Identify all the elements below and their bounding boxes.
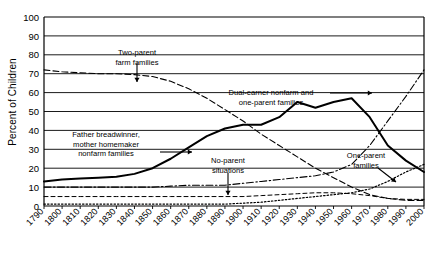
annotation-two-parent-farm: Two-parent <box>118 48 157 57</box>
x-tick-label: 1890 <box>205 206 226 227</box>
x-tick-label: 1990 <box>386 206 407 227</box>
x-tick-label: 1830 <box>97 206 118 227</box>
annotation-one-parent: One-parent <box>347 151 386 160</box>
x-tick-label: 1970 <box>350 206 371 227</box>
x-tick-label: 1860 <box>151 206 172 227</box>
x-tick-label: 1790 <box>24 206 45 227</box>
annotation-arrow-dual-earner-head <box>368 90 372 95</box>
y-tick-label: 80 <box>28 49 39 60</box>
x-tick-label: 2000 <box>404 206 425 227</box>
chart-container: Percent of Children 01020304050607080901… <box>0 0 439 257</box>
annotation-arrow-no-parent-head <box>225 191 230 195</box>
x-tick-label: 1840 <box>115 206 136 227</box>
annotation-arrow-two-parent-head <box>134 78 139 82</box>
x-tick-label: 1930 <box>278 206 299 227</box>
y-tick-label: 10 <box>28 182 39 193</box>
x-tick-label: 1920 <box>259 206 280 227</box>
annotation-dual-earner: Dual-earner nonfarm and <box>229 88 314 97</box>
y-tick-label: 70 <box>28 68 39 79</box>
x-tick-label: 1950 <box>314 206 335 227</box>
y-tick-label: 50 <box>28 106 39 117</box>
x-tick-label: 1940 <box>296 206 317 227</box>
x-tick-label: 1910 <box>241 206 262 227</box>
chart-plot: 0102030405060708090100179018001810182018… <box>0 0 439 257</box>
annotation-father-breadwinner: mother homemaker <box>73 140 139 149</box>
annotation-one-parent: families <box>353 161 379 170</box>
annotation-father-breadwinner: nonfarm families <box>78 149 134 158</box>
y-tick-label: 90 <box>28 31 39 42</box>
annotation-dual-earner: one-parent families <box>239 98 304 107</box>
y-tick-label: 60 <box>28 87 39 98</box>
x-tick-label: 1870 <box>169 206 190 227</box>
y-tick-label: 20 <box>28 163 39 174</box>
x-tick-label: 1980 <box>368 206 389 227</box>
x-tick-label: 1900 <box>223 206 244 227</box>
annotation-arrow-father-breadwinner-head <box>188 149 192 154</box>
x-tick-label: 1810 <box>60 206 81 227</box>
y-tick-label: 40 <box>28 125 39 136</box>
x-tick-label: 1960 <box>332 206 353 227</box>
y-tick-label: 100 <box>23 12 39 23</box>
annotation-father-breadwinner: Father breadwinner, <box>72 130 140 139</box>
x-tick-label: 1820 <box>78 206 99 227</box>
annotation-no-parent: No-parent <box>211 156 246 165</box>
x-tick-label: 1880 <box>187 206 208 227</box>
x-tick-label: 1850 <box>133 206 154 227</box>
x-tick-label: 1800 <box>42 206 63 227</box>
y-tick-label: 30 <box>28 144 39 155</box>
